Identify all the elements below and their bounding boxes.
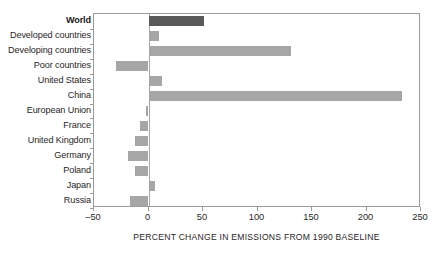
x-axis-tick xyxy=(366,207,367,211)
bar xyxy=(149,181,156,191)
bar-chart-figure: WorldDeveloped countriesDeveloping count… xyxy=(0,0,438,261)
category-label: Poland xyxy=(0,165,91,175)
category-tick xyxy=(90,118,94,119)
category-axis: WorldDeveloped countriesDeveloping count… xyxy=(0,13,91,207)
category-tick xyxy=(90,148,94,149)
category-tick xyxy=(90,44,94,45)
plot-frame xyxy=(93,13,420,207)
category-tick xyxy=(90,163,94,164)
bar xyxy=(149,31,160,41)
category-label: European Union xyxy=(0,105,91,115)
category-tick xyxy=(90,74,94,75)
category-tick xyxy=(90,89,94,90)
bar xyxy=(140,121,149,131)
bar xyxy=(149,76,162,86)
x-axis-tick-label: 50 xyxy=(197,212,207,223)
category-label: Russia xyxy=(0,195,91,205)
category-tick xyxy=(90,193,94,194)
category-tick xyxy=(90,29,94,30)
x-axis-tick xyxy=(148,207,149,211)
category-label: Germany xyxy=(0,150,91,160)
bar xyxy=(116,61,149,71)
x-axis-tick-label: 0 xyxy=(145,212,150,223)
x-axis-tick-label: –50 xyxy=(85,212,101,223)
bar xyxy=(149,91,403,101)
bar xyxy=(135,166,148,176)
category-label: Poor countries xyxy=(0,60,91,70)
x-axis-tick xyxy=(311,207,312,211)
category-tick xyxy=(90,59,94,60)
category-label: France xyxy=(0,120,91,130)
category-tick xyxy=(90,178,94,179)
x-axis-title: PERCENT CHANGE IN EMISSIONS FROM 1990 BA… xyxy=(93,232,420,242)
x-axis: –50050100150200250 xyxy=(93,207,420,231)
category-label: China xyxy=(0,90,91,100)
category-label: World xyxy=(0,15,91,25)
category-label: Developed countries xyxy=(0,30,91,40)
bar xyxy=(128,151,149,161)
x-axis-tick-label: 100 xyxy=(249,212,265,223)
x-axis-tick-label: 250 xyxy=(412,212,428,223)
x-axis-tick-label: 200 xyxy=(358,212,374,223)
bar xyxy=(146,106,148,116)
x-axis-tick xyxy=(93,207,94,211)
plot-area xyxy=(94,14,419,206)
bar xyxy=(149,16,205,26)
category-label: Developing countries xyxy=(0,45,91,55)
x-axis-tick xyxy=(257,207,258,211)
bar xyxy=(130,196,149,206)
category-tick xyxy=(90,133,94,134)
category-label: Japan xyxy=(0,180,91,190)
category-tick xyxy=(90,104,94,105)
bar xyxy=(149,46,292,56)
category-label: United States xyxy=(0,75,91,85)
zero-reference-line xyxy=(149,14,150,206)
category-label: United Kingdom xyxy=(0,135,91,145)
bar xyxy=(135,136,148,146)
x-axis-tick-label: 150 xyxy=(303,212,319,223)
x-axis-tick xyxy=(202,207,203,211)
x-axis-tick xyxy=(420,207,421,211)
